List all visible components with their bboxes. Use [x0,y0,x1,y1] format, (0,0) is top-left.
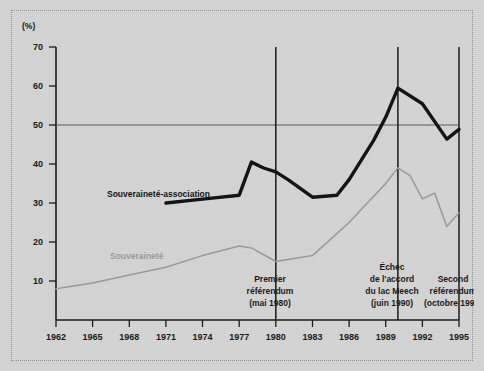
x-tick-label-1986: 1986 [339,332,359,342]
y-tick-label-40: 40 [33,159,43,169]
x-tick-label-1980: 1980 [266,332,286,342]
x-tick-label-1977: 1977 [229,332,249,342]
series-label-souverainete: Souveraineté [110,251,164,261]
x-tick-label-1965: 1965 [83,332,103,342]
y-axis-unit-label: (%) [22,21,35,31]
x-tick-label-1968: 1968 [119,332,139,342]
x-tick-label-1962: 1962 [46,332,66,342]
y-tick-label-70: 70 [33,42,43,52]
x-tick-label-1989: 1989 [376,332,396,342]
annotation-premier-referendum-line-1: Premier [254,274,286,284]
annotation-echec-accord-line-3: du lac Meech [365,286,418,296]
annotation-second-referendum-line-1: Second [438,274,469,284]
annotation-echec-accord-line-1: Échec [379,262,404,272]
y-tick-label-20: 20 [33,237,43,247]
chart-svg: (%) 70 60 50 40 30 [12,11,474,360]
scanned-page-background: (%) 70 60 50 40 30 [0,0,484,371]
annotation-premier-referendum-line-3: (mai 1980) [249,298,291,308]
x-tick-label-1974: 1974 [192,332,212,342]
y-tick-label-10: 10 [33,276,43,286]
x-tick-label-1995: 1995 [449,332,469,342]
chart-figure: (%) 70 60 50 40 30 [12,11,472,360]
y-tick-label-60: 60 [33,81,43,91]
annotation-echec-accord-lac-meech: Échec de l'accord du lac Meech (juin 199… [365,262,418,308]
annotation-echec-accord-line-2: de l'accord [370,274,415,284]
annotation-premier-referendum-line-2: référendum [247,286,294,296]
y-tick-label-30: 30 [33,198,43,208]
annotation-second-referendum-line-3: (octobre 1995) [424,298,474,308]
annotation-premier-referendum: Premier référendum (mai 1980) [247,274,294,308]
y-tick-label-50: 50 [33,120,43,130]
annotation-echec-accord-line-4: (juin 1990) [371,298,413,308]
x-tick-label-1992: 1992 [412,332,432,342]
annotation-second-referendum-line-2: référendum [430,286,474,296]
x-tick-label-1983: 1983 [302,332,322,342]
figure-border: (%) 70 60 50 40 30 [11,10,473,361]
x-tick-label-1971: 1971 [156,332,176,342]
series-label-souverainete-association: Souveraineté-association [107,189,210,199]
y-axis-ticks: 70 60 50 40 30 20 10 [33,42,56,286]
annotation-second-referendum: Second référendum (octobre 1995) [424,274,474,308]
x-axis-ticks: 1962 1965 1968 1971 1974 1977 1980 1983 … [46,320,469,342]
